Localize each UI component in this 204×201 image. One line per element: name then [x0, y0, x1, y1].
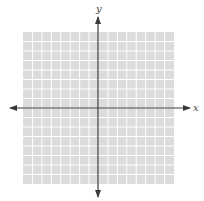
x-axis-label: x	[193, 102, 199, 113]
coordinate-plane: x y	[0, 0, 204, 201]
y-axis-label: y	[95, 3, 102, 14]
